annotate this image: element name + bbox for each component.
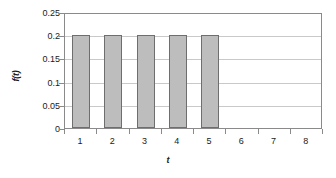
x-axis-tick-mark [322,129,323,134]
bar-slot [226,14,258,128]
bar-slot [162,14,194,128]
x-axis-tick-mark [96,129,97,134]
x-axis-tick-label: 1 [78,136,83,146]
x-axis-tick-label: 4 [174,136,179,146]
bar [137,35,155,128]
x-axis-tick-label: 2 [110,136,115,146]
x-axis-tick-mark [290,129,291,134]
x-axis-tick-mark [161,129,162,134]
bars-layer [65,14,321,128]
bar [201,35,219,128]
y-axis-title-text: f(t) [11,70,21,81]
x-axis-tick-mark [129,129,130,134]
x-axis-tick-label: 3 [142,136,147,146]
bar [72,35,90,128]
bar-slot [130,14,162,128]
y-axis-title: f(t) [6,54,26,98]
y-axis-tick-labels: 00.050.10.150.20.25 [24,13,60,129]
y-axis-tick-mark [59,83,64,84]
x-axis-title-text: t [167,155,170,165]
y-axis-tick-label: 0 [24,124,60,134]
x-axis-tick-label: 7 [271,136,276,146]
x-axis-tick-mark [64,129,65,134]
bar-slot [291,14,322,128]
y-axis-tick-label: 0.15 [24,54,60,64]
bar [104,35,122,128]
y-axis-tick-mark [59,106,64,107]
plot-area [64,13,322,129]
bar-chart: f(t) 00.050.10.150.20.25 12345678 t [0,0,336,178]
bar-slot [194,14,226,128]
y-axis-tick-mark [59,59,64,60]
x-axis-tick-label: 6 [239,136,244,146]
bar-slot [97,14,129,128]
x-axis-tick-label: 5 [207,136,212,146]
y-axis-tick-label: 0.25 [24,8,60,18]
x-axis-title: t [0,155,336,165]
y-axis-tick-label: 0.05 [24,101,60,111]
bar [169,35,187,128]
y-axis-tick-mark [59,13,64,14]
y-axis-tick-label: 0.1 [24,78,60,88]
x-axis-tick-mark [258,129,259,134]
x-axis-tick-mark [225,129,226,134]
y-axis-tick-label: 0.2 [24,31,60,41]
y-axis-tick-mark [59,36,64,37]
x-axis-tick-label: 8 [303,136,308,146]
bar-slot [65,14,97,128]
bar-slot [259,14,291,128]
x-axis-tick-mark [193,129,194,134]
